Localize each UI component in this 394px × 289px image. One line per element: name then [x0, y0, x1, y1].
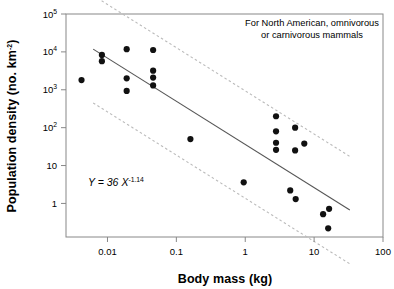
fit-equation-exponent: -1.14: [128, 176, 144, 183]
y-tick-label: 102: [43, 121, 58, 133]
data-point: [273, 128, 279, 134]
regression-line: [93, 49, 350, 210]
data-point: [273, 113, 279, 119]
data-point: [150, 68, 156, 74]
data-point: [273, 140, 279, 146]
y-axis-tick-group: 110102103104105: [43, 8, 66, 209]
data-point: [187, 136, 193, 142]
chart-canvas: 0.010.1110100 110102103104105 Body mass …: [0, 0, 394, 289]
x-tick-label: 10: [309, 246, 320, 257]
data-point: [124, 46, 130, 52]
svg-text:Population density (no. km-2): Population density (no. km-2): [5, 40, 19, 213]
group-caption: For North American, omnivorous or carniv…: [245, 18, 379, 40]
y-tick-label: 105: [43, 8, 58, 20]
y-axis-title-main: Population density (no. km: [5, 50, 19, 212]
y-tick-label: 1: [52, 198, 57, 209]
data-point: [287, 187, 293, 193]
y-axis-title-tail: ): [5, 40, 19, 44]
group-caption-line-2: or carnivorous mammals: [261, 30, 363, 40]
axis-frame: [66, 14, 383, 237]
x-tick-label: 0.01: [98, 246, 117, 257]
data-point: [293, 196, 299, 202]
data-point: [326, 206, 332, 212]
data-point: [150, 74, 156, 80]
y-tick-label: 10: [46, 160, 57, 171]
data-point: [301, 140, 307, 146]
fit-equation-annotation: Y = 36 X-1.14: [88, 176, 144, 188]
data-point: [78, 77, 84, 83]
data-point: [292, 147, 298, 153]
data-point: [99, 58, 105, 64]
x-axis-tick-group: 0.010.1110100: [98, 237, 391, 257]
y-tick-label: 104: [43, 45, 58, 57]
data-point: [241, 179, 247, 185]
data-point: [150, 82, 156, 88]
data-point: [150, 47, 156, 53]
y-tick-label: 103: [43, 83, 58, 95]
data-point: [124, 75, 130, 81]
data-point: [292, 125, 298, 131]
x-tick-label: 100: [375, 246, 391, 257]
fit-equation-body: Y = 36 X: [88, 176, 129, 188]
x-tick-label: 0.1: [170, 246, 183, 257]
x-tick-label: 1: [243, 246, 248, 257]
data-point: [273, 147, 279, 153]
data-point: [320, 211, 326, 217]
fit-equation: Y = 36 X-1.14: [88, 176, 144, 188]
data-point: [99, 52, 105, 58]
x-axis-title: Body mass (kg): [178, 272, 272, 286]
group-caption-line-1: For North American, omnivorous: [245, 18, 379, 28]
y-axis-title: Population density (no. km-2): [5, 40, 19, 213]
data-point-group: [78, 46, 332, 231]
scatter-chart-figure: 0.010.1110100 110102103104105 Body mass …: [0, 0, 394, 289]
data-point: [124, 88, 130, 94]
data-point: [325, 225, 331, 231]
lower-band: [93, 103, 350, 264]
